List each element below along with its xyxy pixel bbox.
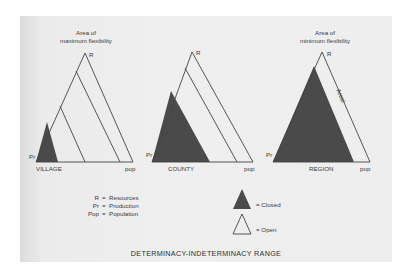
village-label: VILLAGE	[36, 165, 62, 172]
village-inner-line	[60, 106, 85, 162]
legend: = Closed = Open	[233, 189, 281, 234]
determinacy-diagram: Area of maximum flexibility R Pr pop VIL…	[0, 0, 409, 276]
village-closed-area	[36, 122, 58, 162]
region-vertex-r: R	[327, 50, 332, 57]
region-annotation-line1: Area of	[315, 29, 335, 36]
county-vertex-r: R	[196, 49, 201, 56]
county-triangle: R Pr pop COUNTY	[146, 49, 255, 172]
village-annotation-line1: Area of	[76, 29, 96, 36]
county-vertex-pr: Pr	[146, 151, 152, 158]
region-edge-label: Areal	[335, 88, 347, 104]
closed-triangle-icon	[233, 189, 251, 209]
village-vertex-pr: Pr	[29, 153, 35, 160]
county-vertex-pop: pop	[244, 165, 255, 172]
village-annotation-line2: maximum flexibility	[60, 37, 113, 44]
key-meaning-population: Population	[109, 210, 139, 217]
key-eq: =	[102, 210, 106, 217]
legend-closed-label: = Closed	[256, 201, 281, 208]
region-vertex-pr: Pr	[266, 151, 272, 158]
key-eq: =	[102, 202, 106, 209]
village-triangle: Area of maximum flexibility R Pr pop VIL…	[29, 29, 136, 172]
legend-open-label: = Open	[256, 226, 277, 233]
region-annotation-line2: minimum flexibility	[300, 37, 351, 44]
county-closed-area	[152, 91, 210, 162]
key-meaning-resources: Resources	[109, 194, 139, 201]
key-eq: =	[102, 194, 106, 201]
key-abbr-pop: Pop	[88, 210, 100, 217]
key-abbr-pr: Pr	[93, 202, 99, 209]
key-abbr-r: R	[95, 194, 100, 201]
county-label: COUNTY	[168, 165, 194, 172]
village-vertex-pop: pop	[125, 165, 136, 172]
region-label: REGION	[309, 165, 333, 172]
village-vertex-r: R	[89, 51, 94, 58]
region-closed-area	[273, 66, 354, 162]
diagram-caption: DETERMINACY-INDETERMINACY RANGE	[131, 249, 281, 258]
region-vertex-pop: pop	[360, 165, 371, 172]
abbreviation-key: R = Resources Pr = Production Pop = Popu…	[88, 194, 139, 217]
region-triangle: Area of minimum flexibility R Pr pop REG…	[266, 29, 371, 172]
open-triangle-icon	[233, 214, 251, 234]
key-meaning-production: Production	[109, 202, 139, 209]
